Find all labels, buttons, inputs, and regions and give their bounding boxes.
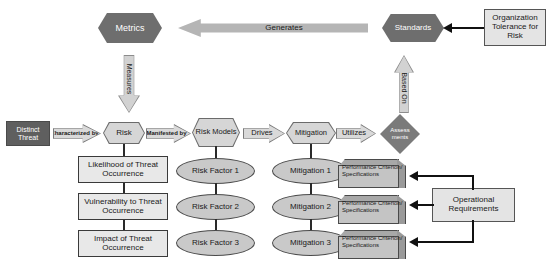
arrow-or-spine-bottom [472, 220, 474, 243]
performance-box-1: Performance Criterion/ Specifications [338, 159, 406, 188]
risk-detail-box-1-label: Likelihood of Threat Occurrence [79, 161, 167, 179]
arrow-or-to-perf2 [418, 204, 434, 206]
arrow-standards-from-tolerance [452, 27, 485, 29]
node-organization-tolerance-label: Organization Tolerance for Risk [488, 14, 542, 41]
mitigation-2-label: Mitigation 2 [290, 203, 331, 212]
performance-box-2: Performance Criterion/ Specifications [338, 195, 406, 224]
risk-detail-box-3-label: Impact of Threat Occurrence [79, 235, 167, 253]
arrow-or-to-perf3 [418, 241, 474, 243]
node-risk-models-label: Risk Models [196, 128, 237, 136]
arrow-drives: Drives [243, 124, 285, 143]
arrowhead-standards [443, 23, 452, 33]
risk-detail-box-1: Likelihood of Threat Occurrence [78, 156, 168, 183]
arrow-generates-label: Generates [243, 24, 302, 33]
risk-detail-box-3: Impact of Threat Occurrence [78, 230, 168, 257]
node-distinct-threat: Distinct Threat [6, 121, 50, 146]
arrow-based-on: Based On [394, 55, 414, 113]
node-risk-label: Risk [116, 129, 132, 138]
performance-box-3-label: Performance Criterion/ Specifications [338, 230, 406, 249]
risk-factor-1: Risk Factor 1 [176, 158, 255, 184]
risk-factor-2: Risk Factor 2 [176, 194, 255, 220]
node-assessments-label: Assess ments [388, 127, 412, 140]
node-metrics: Metrics [98, 13, 162, 43]
risk-factor-1-label: Risk Factor 1 [192, 167, 239, 176]
mitigation-3-label: Mitigation 3 [290, 239, 331, 248]
risk-factor-3: Risk Factor 3 [176, 230, 255, 256]
performance-box-1-label: Performance Criterion/ Specifications [338, 159, 406, 178]
risk-framework-diagram: Metrics Generates Standards Organization… [0, 0, 553, 264]
arrowhead-perf1 [409, 171, 418, 181]
mitigation-1-label: Mitigation 1 [290, 167, 331, 176]
arrow-measures: Measures [118, 55, 140, 113]
node-risk-models: Risk Models [192, 118, 240, 147]
arrow-generates: Generates [178, 19, 368, 37]
node-operational-requirements-label: Operational Requirements [436, 196, 511, 214]
arrowhead-perf2 [409, 200, 418, 210]
arrow-measures-label: Measures [125, 64, 133, 95]
arrow-characterized-by-label: Characterized by [50, 130, 98, 137]
arrow-or-spine-top [472, 176, 474, 190]
node-distinct-threat-label: Distinct Threat [7, 126, 49, 142]
risk-factor-3-label: Risk Factor 3 [192, 239, 239, 248]
node-risk: Risk [103, 122, 145, 144]
node-mitigation-label: Mitigation [295, 129, 327, 137]
node-metrics-label: Metrics [116, 23, 145, 33]
node-mitigation: Mitigation [286, 122, 336, 144]
performance-box-2-label: Performance Criterion/ Specifications [338, 195, 406, 214]
arrow-based-on-label: Based On [400, 72, 408, 103]
arrow-drives-label: Drives [251, 129, 272, 137]
arrow-manifested-by: Manifested by [146, 124, 191, 143]
performance-box-3: Performance Criterion/ Specifications [338, 230, 406, 259]
arrowhead-perf3 [409, 237, 418, 247]
arrow-utilizes-label: Utilizes [342, 129, 366, 137]
node-operational-requirements: Operational Requirements [432, 188, 515, 222]
arrow-manifested-by-label: Manifested by [146, 130, 186, 137]
node-assessments: Assess ments [380, 114, 420, 154]
node-organization-tolerance: Organization Tolerance for Risk [484, 9, 546, 46]
node-standards-label: Standards [395, 24, 431, 33]
risk-detail-box-2-label: Vulnerability to Threat Occurrence [79, 198, 167, 216]
node-standards: Standards [382, 14, 444, 42]
risk-detail-box-2: Vulnerability to Threat Occurrence [78, 193, 168, 220]
arrow-utilizes: Utilizes [336, 124, 376, 143]
arrow-characterized-by: Characterized by [53, 124, 101, 143]
arrow-or-to-perf1 [418, 175, 474, 177]
risk-factor-2-label: Risk Factor 2 [192, 203, 239, 212]
